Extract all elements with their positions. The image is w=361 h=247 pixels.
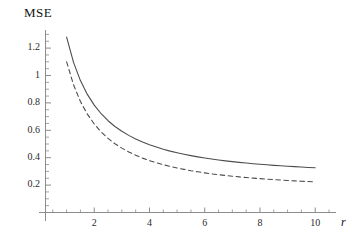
y-tick-label: 0.2	[28, 178, 41, 189]
chart-canvas: 246810 0.20.40.60.811.2	[0, 0, 361, 247]
y-tick-label: 1.2	[28, 41, 41, 52]
y-ticks-group: 0.20.40.60.811.2	[28, 34, 52, 205]
mse-plot-figure: MSE r 246810 0.20.40.60.811.2	[0, 0, 361, 247]
y-tick-label: 0.8	[28, 96, 41, 107]
x-tick-label: 4	[147, 217, 152, 228]
x-tick-label: 2	[92, 217, 97, 228]
dashed-curve	[67, 62, 316, 182]
x-tick-label: 10	[310, 217, 320, 228]
y-tick-label: 1	[35, 69, 40, 80]
x-tick-label: 8	[257, 217, 262, 228]
solid-curve	[67, 37, 316, 168]
x-ticks-group: 246810	[53, 208, 329, 228]
y-tick-label: 0.4	[28, 151, 41, 162]
axes-group	[39, 30, 336, 221]
y-tick-label: 0.6	[28, 124, 41, 135]
data-series-group	[67, 37, 316, 182]
x-tick-label: 6	[202, 217, 207, 228]
